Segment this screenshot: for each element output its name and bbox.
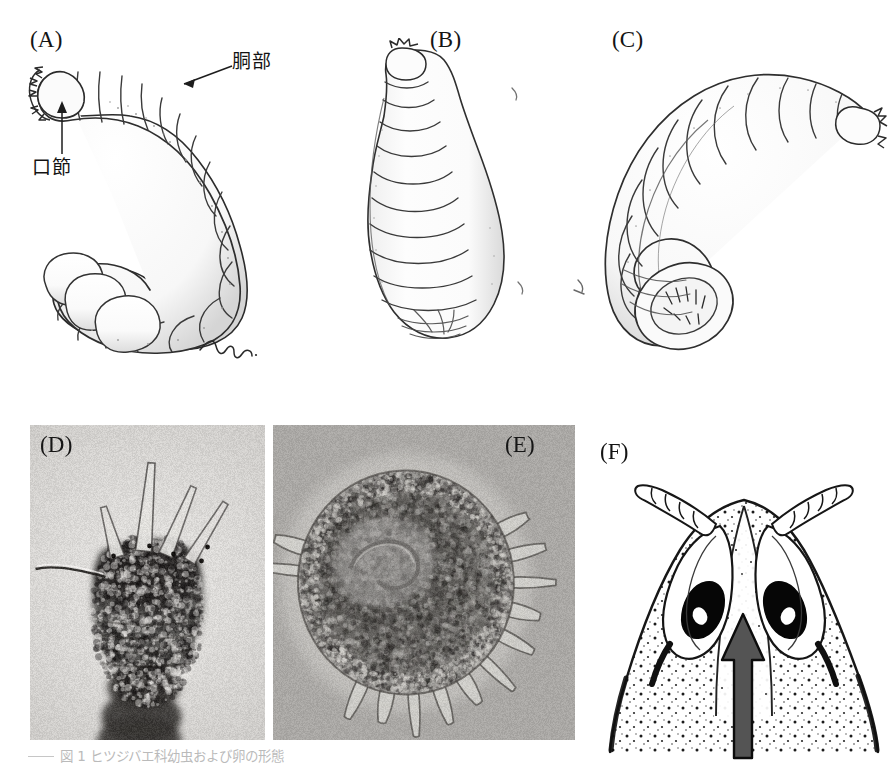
panel-c: (C) <box>560 0 888 400</box>
larva-drawing-b <box>352 38 532 368</box>
caption-rule <box>28 756 54 757</box>
panel-e-canvas <box>273 425 575 740</box>
panel-b: (B) <box>330 0 570 400</box>
panel-d-photo: (D) <box>30 425 265 740</box>
callout-arrow-kousetsu <box>50 98 76 156</box>
panel-e-label: (E) <box>505 433 535 456</box>
larva-drawing-c <box>560 58 888 358</box>
caption-text: 図 1 ヒツジバエ科幼虫および卵の形態 <box>60 748 284 764</box>
panel-e-photo: (E) <box>273 425 575 740</box>
figure-caption: 図 1 ヒツジバエ科幼虫および卵の形態 <box>28 748 874 765</box>
panel-f: (F) <box>588 430 888 750</box>
callout-arrow-dobu <box>168 60 238 96</box>
head-drawing-f <box>596 466 886 765</box>
right-antenna <box>772 485 853 535</box>
left-antenna <box>635 485 716 535</box>
panel-f-label: (F) <box>600 440 629 463</box>
callout-label-kousetsu: 口節 <box>32 158 71 177</box>
panel-c-label: (C) <box>612 28 643 51</box>
panel-d-label: (D) <box>40 433 73 456</box>
figure-plate: (A) <box>0 0 888 765</box>
panel-a-label: (A) <box>30 28 63 51</box>
panel-d-canvas <box>30 425 265 740</box>
